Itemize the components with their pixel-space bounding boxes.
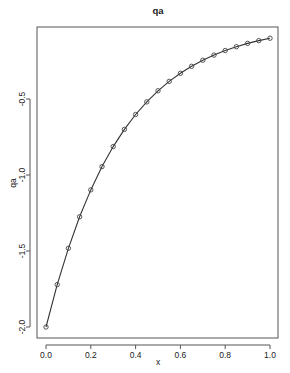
- plot-frame: [37, 27, 278, 338]
- x-tick-label: 0.4: [130, 350, 142, 360]
- y-axis-label: qa: [8, 178, 18, 188]
- y-tick-label: -2.0: [17, 319, 27, 334]
- y-tick-label: -1.0: [17, 167, 27, 182]
- y-tick-label: -0.5: [17, 91, 27, 106]
- line-chart: qa 0.00.20.40.60.81.0 -2.0-1.5-1.0-0.5 x…: [0, 0, 290, 373]
- data-series: [44, 36, 272, 329]
- y-axis: -2.0-1.5-1.0-0.5: [17, 91, 30, 334]
- x-tick-label: 1.0: [264, 350, 276, 360]
- x-axis-label: x: [156, 357, 161, 367]
- chart-title: qa: [152, 5, 164, 16]
- x-tick-label: 0.0: [40, 350, 52, 360]
- series-line: [46, 38, 270, 327]
- x-tick-label: 0.6: [174, 350, 186, 360]
- y-tick-label: -1.5: [17, 243, 27, 258]
- x-tick-label: 0.8: [219, 350, 231, 360]
- x-tick-label: 0.2: [85, 350, 97, 360]
